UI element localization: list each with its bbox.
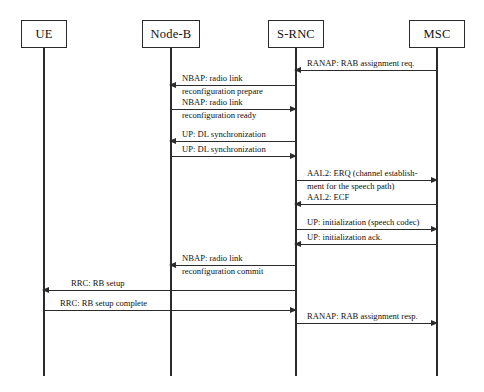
arrowhead-left-icon <box>169 138 176 144</box>
arrowhead-right-icon <box>290 106 297 112</box>
message-label-line1: UP: DL synchronization <box>182 144 266 155</box>
message-label-line1: RRC: RB setup <box>71 278 124 289</box>
arrowhead-right-icon <box>431 226 438 232</box>
arrowhead-left-icon <box>294 67 301 73</box>
message-line <box>295 244 437 245</box>
arrowhead-left-icon <box>169 82 176 88</box>
arrowhead-left-icon <box>294 201 301 207</box>
lifeline-msc <box>436 48 438 376</box>
arrowhead-left-icon <box>169 262 176 268</box>
actor-label-msc: MSC <box>423 28 450 41</box>
arrowhead-right-icon <box>290 307 297 313</box>
message-label-line1: NBAP: radio link <box>182 97 243 108</box>
message-line <box>170 141 296 142</box>
actor-label-srnc: S-RNC <box>277 28 315 41</box>
message-label-line1: RRC: RB setup complete <box>60 298 147 309</box>
message-label-line1: UP: DL synchronization <box>182 129 266 140</box>
message-line <box>43 290 296 291</box>
message-label-line2: reconfiguration commit <box>182 266 263 277</box>
actor-box-ue: UE <box>21 20 67 48</box>
message-label-line1: UP: initialization (speech codec) <box>307 217 419 228</box>
message-label-line1: RANAP: RAB assignment resp. <box>307 311 418 322</box>
arrowhead-left-icon <box>42 287 49 293</box>
message-label-line1: NBAP: radio link <box>182 253 243 264</box>
message-line <box>295 204 437 205</box>
message-line <box>43 310 296 311</box>
message-label-line1: NBAP: radio link <box>182 73 243 84</box>
message-line <box>295 229 437 230</box>
message-label-line1: RANAP: RAB assignment req. <box>307 58 414 69</box>
message-label-line2: reconfiguration prepare <box>182 86 263 97</box>
lifeline-nodeb <box>170 48 172 376</box>
lifeline-ue <box>43 48 45 376</box>
actor-label-nodeb: Node-B <box>151 28 192 41</box>
arrowhead-right-icon <box>290 153 297 159</box>
message-line <box>295 70 437 71</box>
sequence-diagram: UE Node-B S-RNC MSC RANAP: RAB assignmen… <box>0 0 484 392</box>
message-label-line2: ment for the speech path) <box>307 181 394 192</box>
message-label-line1: UP: initialization ack. <box>307 232 382 243</box>
actor-box-srnc: S-RNC <box>268 20 324 48</box>
message-line <box>170 156 296 157</box>
message-label-line1: AAL2: ECF <box>307 192 349 203</box>
actor-box-nodeb: Node-B <box>142 20 200 48</box>
arrowhead-right-icon <box>431 177 438 183</box>
actor-box-msc: MSC <box>409 20 465 48</box>
message-label-line2: reconfiguration ready <box>182 110 256 121</box>
message-line <box>295 323 437 324</box>
message-label-line1: AAL2: ERQ (channel establish- <box>307 168 418 179</box>
lifeline-srnc <box>295 48 297 376</box>
arrowhead-left-icon <box>294 241 301 247</box>
arrowhead-right-icon <box>431 320 438 326</box>
actor-label-ue: UE <box>35 28 52 41</box>
